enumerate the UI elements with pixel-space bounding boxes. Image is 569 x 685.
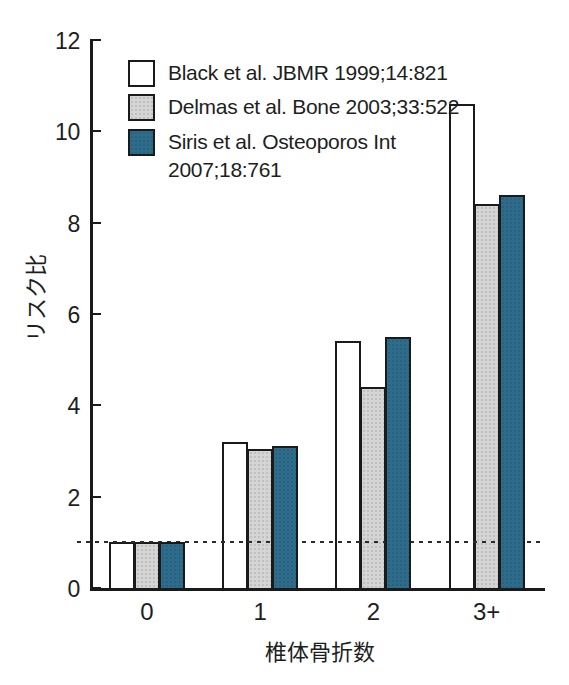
bar bbox=[360, 387, 386, 590]
bar bbox=[222, 442, 248, 590]
bar bbox=[499, 195, 525, 590]
y-tick-label: 4 bbox=[28, 395, 80, 418]
legend-label: Siris et al. Osteoporos Int2007;18:761 bbox=[168, 128, 396, 185]
y-tick-label: 12 bbox=[28, 30, 80, 53]
y-tick-label: 10 bbox=[28, 121, 80, 144]
legend-swatch bbox=[128, 129, 155, 156]
legend-label: Black et al. JBMR 1999;14:821 bbox=[168, 59, 448, 87]
legend-row: Black et al. JBMR 1999;14:821 bbox=[128, 59, 459, 87]
x-tick-label: 1 bbox=[225, 600, 295, 624]
legend-swatch bbox=[128, 94, 155, 121]
bar bbox=[247, 449, 273, 590]
bar bbox=[134, 542, 160, 590]
y-tick bbox=[90, 130, 101, 132]
y-tick bbox=[90, 39, 101, 41]
bar bbox=[272, 446, 298, 590]
x-tick-label: 0 bbox=[112, 600, 182, 624]
bar bbox=[335, 341, 361, 590]
reference-dashed-line bbox=[77, 541, 545, 543]
legend-label: Delmas et al. Bone 2003;33:522 bbox=[168, 93, 459, 121]
bar bbox=[385, 337, 411, 590]
legend: Black et al. JBMR 1999;14:821Delmas et a… bbox=[128, 59, 459, 190]
x-axis-title: 椎体骨折数 bbox=[195, 634, 445, 666]
x-tick-label: 2 bbox=[338, 600, 408, 624]
figure-root: 024681012 0123+ Black et al. JBMR 1999;1… bbox=[0, 0, 569, 685]
y-tick-label: 2 bbox=[28, 487, 80, 510]
bar bbox=[474, 204, 500, 590]
y-tick bbox=[90, 404, 101, 406]
bar bbox=[159, 542, 185, 590]
x-tick-label: 3+ bbox=[452, 600, 522, 624]
y-tick bbox=[90, 313, 101, 315]
legend-row: Siris et al. Osteoporos Int2007;18:761 bbox=[128, 128, 459, 185]
y-tick-label: 0 bbox=[28, 578, 80, 601]
y-tick bbox=[90, 587, 101, 589]
legend-swatch bbox=[128, 60, 155, 87]
y-axis-line bbox=[90, 40, 93, 590]
legend-row: Delmas et al. Bone 2003;33:522 bbox=[128, 93, 459, 121]
bar bbox=[109, 542, 135, 590]
y-axis-title: リスク比 bbox=[18, 202, 50, 394]
y-tick bbox=[90, 496, 101, 498]
y-tick bbox=[90, 222, 101, 224]
